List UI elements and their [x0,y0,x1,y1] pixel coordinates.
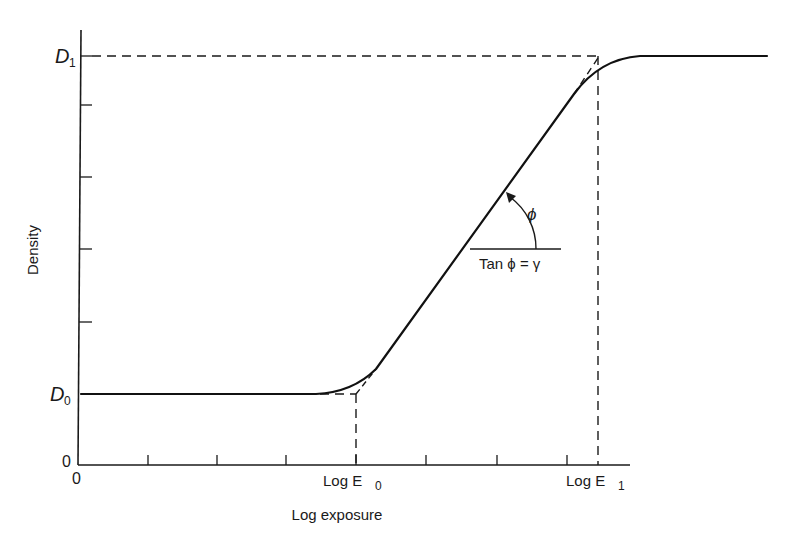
x-zero-label: 0 [72,470,81,487]
gamma-formula: Tan ϕ = γ [479,255,541,272]
phi-label: ϕ [527,205,536,224]
d1-label: D [55,45,69,67]
characteristic-curve [81,56,767,394]
log-e1-subscript: 1 [618,479,625,493]
d1-subscript: 1 [69,56,76,70]
axes [78,30,630,465]
y-tick-labels: D 1 D 0 0 [50,45,76,470]
x-tick-labels: 0 Log E 0 Log E 1 [72,470,625,493]
log-e0-subscript: 0 [375,479,382,493]
y-axis [78,30,81,465]
y-axis-title: Density [24,224,41,275]
y-zero-label: 0 [62,453,71,470]
d0-subscript: 0 [64,394,71,408]
d0-label: D [50,383,64,405]
x-axis-title: Log exposure [292,506,383,523]
log-e0-label: Log E [323,472,362,489]
gamma-annotation: ϕ Tan ϕ = γ [470,192,561,272]
x-ticks [148,455,567,465]
log-e1-label: Log E [566,472,605,489]
characteristic-curve-diagram: ϕ Tan ϕ = γ D 1 D 0 0 Density 0 Log E 0 … [0,0,789,540]
